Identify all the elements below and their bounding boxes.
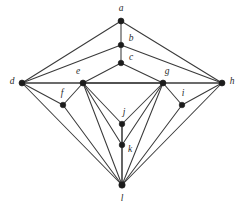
graph-edge xyxy=(121,21,222,83)
vertex-label-f: f xyxy=(61,89,64,99)
graph-edge xyxy=(22,83,63,105)
graph-vertex-i[interactable] xyxy=(179,102,185,108)
graph-edge xyxy=(63,105,122,185)
vertex-label-i: i xyxy=(182,89,185,99)
graph-vertex-l[interactable] xyxy=(119,182,125,188)
graph-vertex-a[interactable] xyxy=(118,18,124,24)
graph-edge xyxy=(163,83,182,105)
vertex-label-l: l xyxy=(121,194,124,204)
vertex-label-d: d xyxy=(10,77,15,87)
graph-edge xyxy=(122,83,222,185)
graph-diagram: abcdefghijkl xyxy=(0,0,242,209)
vertex-label-j: j xyxy=(123,108,126,118)
graph-vertex-c[interactable] xyxy=(118,60,124,66)
graph-vertex-b[interactable] xyxy=(118,42,124,48)
graph-vertex-e[interactable] xyxy=(80,80,86,86)
graph-vertex-k[interactable] xyxy=(119,142,125,148)
graph-vertex-g[interactable] xyxy=(160,80,166,86)
graph-edge xyxy=(22,83,122,185)
graph-vertex-f[interactable] xyxy=(60,102,66,108)
graph-edge xyxy=(121,45,222,83)
graph-edge xyxy=(83,83,122,145)
graph-canvas xyxy=(0,0,242,209)
graph-edge xyxy=(122,83,163,185)
graph-edge xyxy=(182,83,222,105)
vertex-label-a: a xyxy=(119,4,124,14)
graph-edge xyxy=(83,83,122,185)
graph-vertex-h[interactable] xyxy=(219,80,225,86)
graph-edge xyxy=(121,63,163,83)
graph-vertex-j[interactable] xyxy=(119,121,125,127)
vertex-label-c: c xyxy=(129,53,133,63)
graph-vertex-d[interactable] xyxy=(19,80,25,86)
graph-edge xyxy=(122,83,163,124)
graph-edge xyxy=(122,83,163,145)
vertex-label-b: b xyxy=(129,34,134,44)
vertex-label-h: h xyxy=(230,77,235,87)
graph-edge xyxy=(22,45,121,83)
vertex-label-e: e xyxy=(76,67,80,77)
vertex-label-g: g xyxy=(165,67,170,77)
graph-edge xyxy=(83,63,121,83)
vertex-label-k: k xyxy=(128,145,132,155)
graph-edge xyxy=(83,83,122,124)
graph-edge xyxy=(22,21,121,83)
graph-edge xyxy=(63,83,83,105)
